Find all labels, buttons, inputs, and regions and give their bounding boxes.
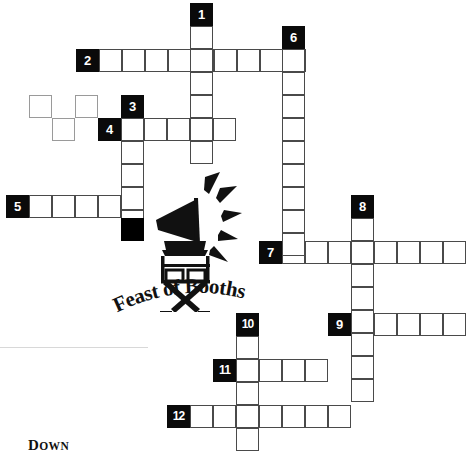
grid-cell[interactable] bbox=[121, 164, 144, 187]
grid-cell[interactable] bbox=[305, 359, 328, 382]
grid-cell[interactable] bbox=[167, 118, 190, 141]
grid-cell[interactable] bbox=[214, 49, 237, 72]
grid-cell-faint[interactable] bbox=[75, 95, 98, 118]
grid-cell[interactable] bbox=[328, 405, 351, 428]
grid-cell[interactable] bbox=[282, 405, 305, 428]
grid-cell[interactable] bbox=[121, 141, 144, 164]
clue-number-12: 12 bbox=[167, 405, 190, 428]
grid-cell[interactable] bbox=[29, 195, 52, 218]
grid-cell[interactable] bbox=[236, 336, 259, 359]
grid-cell[interactable] bbox=[190, 95, 213, 118]
footer-divider bbox=[0, 347, 148, 348]
grid-cell[interactable] bbox=[236, 382, 259, 405]
grid-cell[interactable] bbox=[351, 264, 374, 287]
grid-cell[interactable] bbox=[282, 141, 305, 164]
grid-cell[interactable] bbox=[190, 405, 213, 428]
down-section-label: DOWN bbox=[28, 437, 69, 454]
grid-cell[interactable] bbox=[121, 118, 144, 141]
grid-cell[interactable] bbox=[282, 49, 305, 72]
grid-cell[interactable] bbox=[351, 333, 374, 356]
clue-number-11: 11 bbox=[213, 359, 236, 382]
grid-cell[interactable] bbox=[374, 313, 397, 336]
grid-cell[interactable] bbox=[397, 241, 420, 264]
grid-cell[interactable] bbox=[282, 164, 305, 187]
clue-number-5: 5 bbox=[6, 195, 29, 218]
clue-number-3: 3 bbox=[121, 95, 144, 118]
grid-cell[interactable] bbox=[259, 405, 282, 428]
grid-cell[interactable] bbox=[282, 187, 305, 210]
clue-number-10: 10 bbox=[236, 313, 259, 336]
grid-cell[interactable] bbox=[443, 241, 466, 264]
grid-cell[interactable] bbox=[282, 72, 305, 95]
grid-cell[interactable] bbox=[328, 241, 351, 264]
grid-cell[interactable] bbox=[237, 49, 260, 72]
grid-cell[interactable] bbox=[99, 49, 122, 72]
grid-cell-faint[interactable] bbox=[52, 118, 75, 141]
grid-cell[interactable] bbox=[420, 313, 443, 336]
grid-cell[interactable] bbox=[122, 49, 145, 72]
grid-cell[interactable] bbox=[98, 195, 121, 218]
grid-cell[interactable] bbox=[282, 95, 305, 118]
clue-number-4: 4 bbox=[98, 118, 121, 141]
grid-cell[interactable] bbox=[351, 379, 374, 402]
grid-cell[interactable] bbox=[121, 187, 144, 210]
grid-cell[interactable] bbox=[351, 356, 374, 379]
grid-cell[interactable] bbox=[374, 241, 397, 264]
grid-cell[interactable] bbox=[145, 49, 168, 72]
clue-number-9: 9 bbox=[328, 313, 351, 336]
grid-cell[interactable] bbox=[190, 49, 213, 72]
grid-cell[interactable] bbox=[351, 287, 374, 310]
grid-cell[interactable] bbox=[168, 49, 191, 72]
grid-cell[interactable] bbox=[190, 118, 213, 141]
grid-block bbox=[121, 218, 144, 241]
grid-cell[interactable] bbox=[420, 241, 443, 264]
grid-cell[interactable] bbox=[144, 118, 167, 141]
grid-cell[interactable] bbox=[305, 241, 328, 264]
grid-cell[interactable] bbox=[260, 49, 283, 72]
grid-cell[interactable] bbox=[236, 359, 259, 382]
clue-number-8: 8 bbox=[351, 195, 374, 218]
grid-cell[interactable] bbox=[282, 210, 305, 233]
clue-number-7: 7 bbox=[259, 241, 282, 264]
grid-cell[interactable] bbox=[190, 72, 213, 95]
grid-cell[interactable] bbox=[52, 195, 75, 218]
clue-number-1: 1 bbox=[190, 3, 213, 26]
grid-cell[interactable] bbox=[75, 195, 98, 218]
crossword-puzzle: 123456789101112 bbox=[0, 0, 473, 459]
grid-cell[interactable] bbox=[190, 26, 213, 49]
clue-number-2: 2 bbox=[76, 49, 99, 72]
grid-cell[interactable] bbox=[213, 118, 236, 141]
grid-cell[interactable] bbox=[351, 310, 374, 333]
grid-cell[interactable] bbox=[236, 428, 259, 451]
grid-cell[interactable] bbox=[443, 313, 466, 336]
grid-cell-faint[interactable] bbox=[29, 95, 52, 118]
grid-cell[interactable] bbox=[397, 313, 420, 336]
grid-cell[interactable] bbox=[236, 405, 259, 428]
clue-number-6: 6 bbox=[282, 26, 305, 49]
grid-cell[interactable] bbox=[213, 405, 236, 428]
grid-cell[interactable] bbox=[190, 141, 213, 164]
down-label-text: DOWN bbox=[28, 437, 69, 453]
grid-cell[interactable] bbox=[282, 233, 305, 256]
grid-cell[interactable] bbox=[259, 359, 282, 382]
grid-cell[interactable] bbox=[282, 359, 305, 382]
grid-cell[interactable] bbox=[351, 218, 374, 241]
grid-cell[interactable] bbox=[305, 405, 328, 428]
grid-cell[interactable] bbox=[282, 118, 305, 141]
grid-cell[interactable] bbox=[351, 241, 374, 264]
